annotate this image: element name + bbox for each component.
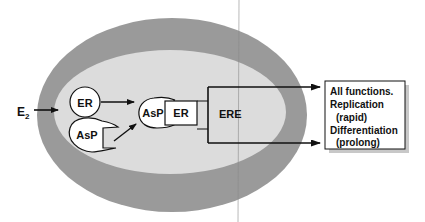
complex-asp-label: AsP <box>142 107 163 119</box>
diagram-canvas: E2 ER AsP AsP ER ERE All functions. Repl… <box>0 0 425 222</box>
er-label: ER <box>77 97 92 109</box>
asp-label: AsP <box>76 129 97 141</box>
outcomes-box: All functions. Replication (rapid) Diffe… <box>325 81 409 153</box>
er-receptor: ER <box>70 87 100 117</box>
ere-label: ERE <box>219 108 242 120</box>
asp-er-complex: AsP ER <box>139 97 197 128</box>
complex-er-label: ER <box>173 107 188 119</box>
e2-label: E2 <box>17 105 30 121</box>
